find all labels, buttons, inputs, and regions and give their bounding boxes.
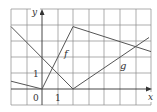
- origin-label: 0: [33, 93, 39, 103]
- graph: y x f g 0 1 1: [0, 0, 157, 112]
- grid: [11, 9, 151, 105]
- y-axis-label: y: [31, 7, 38, 17]
- g-curve: [11, 27, 149, 89]
- x-axis-label: x: [148, 92, 153, 102]
- x-tick-one: 1: [55, 93, 61, 103]
- axes: [11, 12, 149, 105]
- f-curve: [11, 27, 151, 89]
- y-axis-arrow: [40, 9, 45, 15]
- g-label: g: [120, 60, 126, 71]
- y-tick-one: 1: [33, 69, 39, 79]
